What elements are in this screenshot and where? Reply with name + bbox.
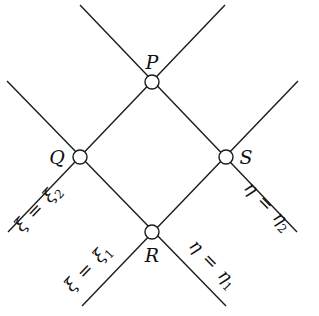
node-s	[219, 150, 233, 164]
svg-text:η = η2: η = η2	[238, 177, 297, 237]
node-q	[73, 150, 87, 164]
equation-eta-1: η = η1	[183, 235, 242, 295]
equation-xi-1: ξ = ξ1	[60, 239, 118, 297]
node-r	[145, 225, 159, 239]
equation-eta-2: η = η2	[238, 177, 297, 237]
label-s: S	[239, 146, 252, 168]
label-q: Q	[49, 146, 65, 168]
equation-xi-2: ξ = ξ2	[10, 179, 68, 237]
svg-text:ξ = ξ1: ξ = ξ1	[60, 239, 118, 297]
label-r: R	[144, 244, 159, 266]
characteristic-diagram: P Q S R ξ = ξ2 ξ = ξ1 η = η1 η = η2	[0, 0, 319, 316]
svg-text:ξ = ξ2: ξ = ξ2	[10, 179, 68, 237]
svg-text:η = η1: η = η1	[183, 235, 242, 295]
label-p: P	[145, 51, 160, 73]
node-p	[145, 75, 159, 89]
